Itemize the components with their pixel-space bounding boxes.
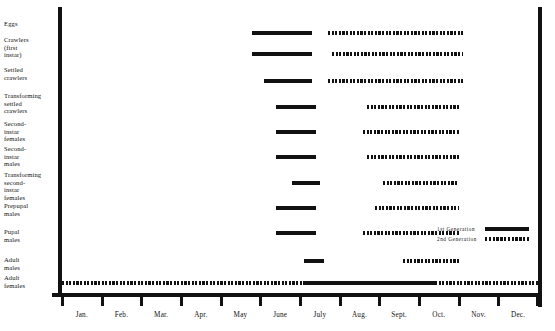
stage-label-line: Second- <box>4 145 56 153</box>
stage-label-line: females <box>4 282 56 290</box>
month-label: July <box>300 311 340 320</box>
phenology-chart: EggsCrawlers(firstinstar)Settledcrawlers… <box>0 0 555 331</box>
stage-label-line: instar) <box>4 51 56 59</box>
bar-gen1 <box>276 231 316 235</box>
stage-label-line: instar <box>4 128 56 136</box>
month-tick <box>378 297 381 306</box>
legend-swatch-gen2 <box>485 237 529 241</box>
month-tick <box>497 297 500 306</box>
stage-label-line: (first <box>4 44 56 52</box>
month-label: Feb. <box>102 311 142 320</box>
month-tick <box>458 297 461 306</box>
stage-label-line: Adult <box>4 274 56 282</box>
stage-label-line: Pupal <box>4 228 56 236</box>
bar-gen1 <box>304 259 324 263</box>
stage-label: Prepupalmales <box>4 202 56 217</box>
month-label: Sept. <box>379 311 419 320</box>
stage-label-line: instar <box>4 153 56 161</box>
month-label: Mar. <box>141 311 181 320</box>
stage-label-line: Adult <box>4 256 56 264</box>
month-label: May <box>221 311 261 320</box>
stage-label: Transformingsecond-instarfemales <box>4 171 56 201</box>
legend-label-gen1: 1st Generation <box>437 225 475 233</box>
stage-label-line: instar <box>4 186 56 194</box>
stage-label-line: Transforming <box>4 171 56 179</box>
stage-label-line: males <box>4 264 56 272</box>
month-tick <box>140 297 143 306</box>
stage-label-line: males <box>4 160 56 168</box>
stage-label-line: crawlers <box>4 74 56 82</box>
month-tick <box>61 297 64 306</box>
stage-label-line: Transforming <box>4 92 56 100</box>
bar-gen1 <box>276 105 316 109</box>
month-tick <box>259 297 262 306</box>
bar-gen1 <box>264 79 312 83</box>
month-label: Jan. <box>62 311 102 320</box>
stage-label: Transformingsettledcrawlers <box>4 92 56 115</box>
bar-gen2 <box>367 155 458 159</box>
stage-label-line: Settled <box>4 66 56 74</box>
bar-gen2 <box>363 130 458 134</box>
month-label: Apr. <box>181 311 221 320</box>
bar-gen2 <box>328 79 463 83</box>
legend-label-gen2: 2nd Generation <box>437 235 477 243</box>
month-label: June <box>260 311 300 320</box>
stage-label: Eggs <box>4 20 56 28</box>
month-tick <box>220 297 223 306</box>
month-tick <box>536 297 539 306</box>
stage-label-line: Crawlers <box>4 36 56 44</box>
stage-label-line: females <box>4 135 56 143</box>
stage-label-line: males <box>4 236 56 244</box>
bar-gen1 <box>252 52 312 56</box>
bar-gen2 <box>375 206 458 210</box>
month-tick <box>339 297 342 306</box>
bar-gen2 <box>62 281 304 285</box>
stage-label: Second-instarmales <box>4 145 56 168</box>
month-label: Dec. <box>498 311 538 320</box>
stage-label-line: Eggs <box>4 20 56 28</box>
month-tick <box>101 297 104 306</box>
stage-label-line: crawlers <box>4 107 56 115</box>
stage-label: Second-instarfemales <box>4 120 56 143</box>
stage-label: Adultfemales <box>4 274 56 289</box>
bar-gen1 <box>304 281 435 285</box>
bar-gen2 <box>383 181 458 185</box>
month-label: Aug. <box>340 311 380 320</box>
stage-label: Adultmales <box>4 256 56 271</box>
stage-label: Crawlers(firstinstar) <box>4 36 56 59</box>
bar-gen2 <box>435 281 538 285</box>
x-axis-line <box>52 293 541 297</box>
month-label: Nov. <box>459 311 499 320</box>
stage-label: Settledcrawlers <box>4 66 56 81</box>
bar-gen2 <box>332 52 463 56</box>
stage-label-line: second- <box>4 179 56 187</box>
month-tick <box>180 297 183 306</box>
stage-label-line: settled <box>4 100 56 108</box>
bar-gen1 <box>292 181 320 185</box>
legend-swatch-gen1 <box>485 227 529 231</box>
chart-right-border <box>538 7 542 307</box>
bar-gen1 <box>252 31 312 35</box>
stage-label-line: females <box>4 194 56 202</box>
bar-gen1 <box>276 130 316 134</box>
stage-label-line: males <box>4 210 56 218</box>
bar-gen2 <box>403 259 459 263</box>
month-tick <box>418 297 421 306</box>
bar-gen2 <box>367 105 458 109</box>
stage-label: Pupalmales <box>4 228 56 243</box>
bar-gen2 <box>328 31 463 35</box>
stage-label-line: Prepupal <box>4 202 56 210</box>
bar-gen1 <box>276 206 316 210</box>
bar-gen1 <box>276 155 316 159</box>
y-axis-line <box>58 7 62 297</box>
month-label: Oct. <box>419 311 459 320</box>
month-tick <box>299 297 302 306</box>
stage-label-line: Second- <box>4 120 56 128</box>
